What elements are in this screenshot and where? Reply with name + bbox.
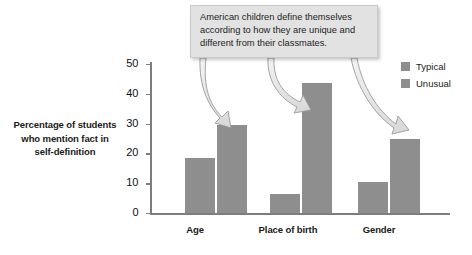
y-tick-20: 20 <box>146 153 151 154</box>
legend-swatch-unusual <box>401 79 410 88</box>
y-axis-label-line-3: self-definition <box>2 145 128 159</box>
y-tick-label-10: 10 <box>126 176 138 188</box>
bar-place-of-birth-typical <box>270 194 300 213</box>
legend-label-typical: Typical <box>416 61 446 72</box>
y-tick-10: 10 <box>146 183 151 184</box>
x-tick-label-place-of-birth: Place of birth <box>243 224 333 235</box>
chart-figure: Percentage of students who mention fact … <box>0 0 472 255</box>
bar-gender-typical <box>358 182 388 213</box>
y-tick-label-30: 30 <box>126 117 138 129</box>
bar-age-typical <box>185 158 215 213</box>
x-tick-label-gender: Gender <box>341 224 417 235</box>
plot-area: 0 10 20 30 40 50 <box>150 64 430 213</box>
legend-swatch-typical <box>401 62 410 71</box>
x-axis-line <box>150 213 450 215</box>
x-tick-label-age: Age <box>158 224 232 235</box>
y-tick-40: 40 <box>146 94 151 95</box>
bar-place-of-birth-unusual <box>302 83 332 213</box>
legend-label-unusual: Unusual <box>416 78 451 89</box>
bar-gender-unusual <box>390 139 420 214</box>
y-tick-label-50: 50 <box>126 57 138 69</box>
y-axis-label: Percentage of students who mention fact … <box>2 118 128 159</box>
y-tick-30: 30 <box>146 124 151 125</box>
callout-line-3: different from their classmates. <box>200 37 370 50</box>
y-tick-50: 50 <box>146 64 151 65</box>
y-tick-label-0: 0 <box>132 206 138 218</box>
callout-line-2: according to how they are unique and <box>200 24 370 37</box>
callout-line-1: American children define themselves <box>200 11 370 24</box>
legend-item-typical: Typical <box>401 58 471 75</box>
y-tick-label-20: 20 <box>126 146 138 158</box>
legend-item-unusual: Unusual <box>401 75 471 92</box>
y-axis-label-line-2: who mention fact in <box>2 132 128 146</box>
callout-box: American children define themselves acco… <box>190 5 378 58</box>
legend: Typical Unusual <box>401 58 471 92</box>
bar-age-unusual <box>217 125 247 213</box>
y-axis-label-line-1: Percentage of students <box>2 118 128 132</box>
y-axis-line <box>150 62 152 214</box>
y-tick-0: 0 <box>146 213 151 214</box>
y-tick-label-40: 40 <box>126 87 138 99</box>
